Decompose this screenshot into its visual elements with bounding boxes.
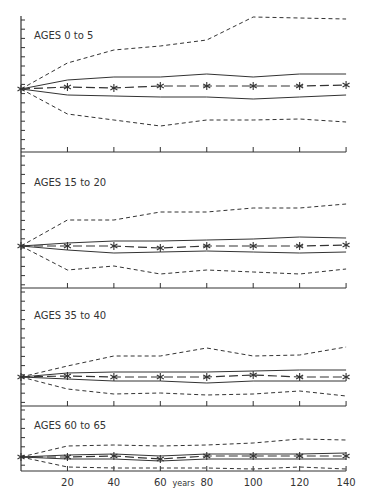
asterisk-marker — [343, 81, 350, 89]
x-tick-label: 100 — [244, 477, 263, 488]
small-multiples-line-chart: AGES 0 to 5AGES 15 to 20AGES 35 to 40AGE… — [0, 0, 366, 495]
panel-2: AGES 15 to 20 — [18, 152, 350, 288]
x-tick-label: 140 — [337, 477, 356, 488]
panel-label: AGES 0 to 5 — [34, 30, 93, 41]
chart-panels: AGES 0 to 5AGES 15 to 20AGES 35 to 40AGE… — [18, 16, 350, 471]
x-tick-label: 80 — [200, 477, 213, 488]
panel-1: AGES 0 to 5 — [18, 16, 350, 152]
panel-4: AGES 60 to 65 — [18, 406, 350, 471]
x-tick-label: 120 — [290, 477, 309, 488]
x-tick-label: 20 — [61, 477, 74, 488]
series-outer-upper — [21, 204, 346, 246]
asterisk-marker — [343, 241, 350, 249]
x-axis-label: years — [173, 479, 195, 488]
panel-label: AGES 60 to 65 — [34, 420, 106, 431]
series-inner-lower — [21, 89, 346, 99]
series-outer-lower — [21, 377, 346, 396]
x-tick-label: 40 — [108, 477, 121, 488]
panel-3: AGES 35 to 40 — [18, 288, 350, 406]
asterisk-marker — [343, 373, 350, 381]
x-axis: 20406080100120140years — [61, 477, 356, 488]
panel-label: AGES 15 to 20 — [34, 177, 106, 188]
panel-label: AGES 35 to 40 — [34, 310, 106, 321]
x-tick-label: 60 — [154, 477, 167, 488]
series-outer-upper — [21, 17, 346, 89]
